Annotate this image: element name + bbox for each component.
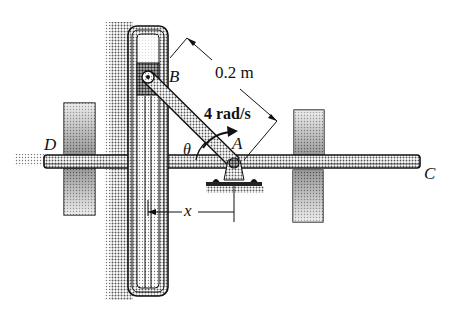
label-length-AB: 0.2 m — [215, 64, 254, 81]
label-x: x — [184, 202, 192, 219]
label-A: A — [232, 135, 242, 152]
label-B: B — [169, 68, 179, 85]
diagram-graphics — [0, 0, 454, 328]
label-D: D — [44, 136, 56, 153]
label-C: C — [424, 165, 435, 182]
rod-end-fade — [14, 154, 46, 166]
mechanism-diagram: B 0.2 m 4 rad/s θ A D C x — [0, 0, 454, 328]
slotted-link — [128, 26, 168, 296]
label-angular-velocity: 4 rad/s — [204, 106, 251, 122]
pin-A — [229, 158, 239, 168]
label-theta: θ — [183, 142, 191, 158]
